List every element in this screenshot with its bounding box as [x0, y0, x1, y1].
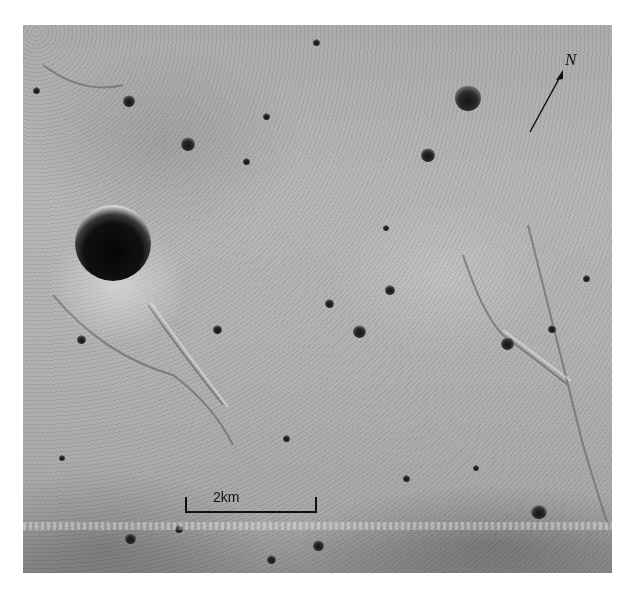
scale-bar	[186, 497, 316, 512]
caption-strip	[0, 573, 636, 596]
north-arrow-icon	[530, 70, 563, 132]
north-label: N	[565, 50, 576, 70]
annotation-overlay	[0, 0, 636, 596]
scale-bar-label: 2km	[213, 489, 239, 505]
